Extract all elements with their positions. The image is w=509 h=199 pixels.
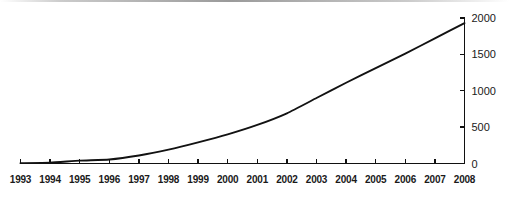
x-axis-label-2004: 2004 xyxy=(335,174,356,185)
line-chart-plot xyxy=(0,0,509,199)
y-axis-label-1500: 1500 xyxy=(472,48,496,60)
x-axis-label-2003: 2003 xyxy=(306,174,327,185)
x-axis-label-2007: 2007 xyxy=(424,174,445,185)
series-group xyxy=(21,23,465,163)
y-axis-label-0: 0 xyxy=(472,158,478,170)
x-axis-label-2006: 2006 xyxy=(395,174,416,185)
x-axis-label-1995: 1995 xyxy=(69,174,90,185)
x-axis-label-1998: 1998 xyxy=(158,174,179,185)
x-axis-label-1994: 1994 xyxy=(39,174,60,185)
y-axis-label-500: 500 xyxy=(472,121,490,133)
x-axis-label-2001: 2001 xyxy=(247,174,268,185)
y-axis-label-1000: 1000 xyxy=(472,85,496,97)
x-axis-label-1999: 1999 xyxy=(187,174,208,185)
chart-figure: 1993199419951996199719981999200020012002… xyxy=(0,0,509,199)
data-series-line xyxy=(21,23,465,163)
x-axis-label-1996: 1996 xyxy=(99,174,120,185)
y-axis-label-2000: 2000 xyxy=(472,12,496,24)
axes-group xyxy=(21,17,465,164)
x-axis-label-2005: 2005 xyxy=(365,174,386,185)
x-axis-label-2008: 2008 xyxy=(454,174,475,185)
x-axis-label-2000: 2000 xyxy=(217,174,238,185)
x-axis-label-2002: 2002 xyxy=(276,174,297,185)
x-axis-label-1993: 1993 xyxy=(10,174,31,185)
x-axis-label-1997: 1997 xyxy=(128,174,149,185)
